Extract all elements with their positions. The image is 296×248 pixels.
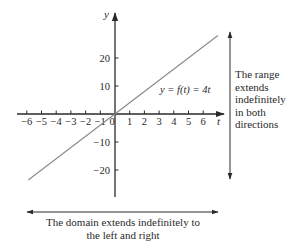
function-label: y = f(t) = 4t [159, 84, 211, 96]
x-axis-label: t [217, 115, 221, 127]
y-axis-label: y [103, 8, 109, 20]
x-tick-label: −4 [51, 116, 63, 127]
x-tick-label: 4 [171, 116, 177, 127]
x-tick-label: 1 [127, 116, 132, 127]
y-tick-label: −20 [94, 165, 110, 176]
y-tick-label: 20 [100, 53, 111, 64]
y-tick-label: 10 [100, 81, 111, 92]
x-tick-label: −5 [36, 116, 47, 127]
function-line [28, 36, 218, 180]
x-tick-label: 6 [201, 116, 206, 127]
x-tick-label: −3 [65, 116, 76, 127]
x-tick-label: 2 [142, 116, 147, 127]
x-tick-label: −2 [80, 116, 91, 127]
range-annotation: The rangeextendsindefinitelyin bothdirec… [235, 68, 286, 130]
x-tick-label: 3 [156, 116, 161, 127]
linear-function-chart: −6−5−4−3−2−10123456 2010−10−20 t y y = f… [0, 0, 296, 248]
x-axis-ticks: −6−5−4−3−2−10123456 [21, 111, 206, 128]
x-tick-label: 5 [186, 116, 191, 127]
y-tick-label: −10 [94, 137, 110, 148]
domain-annotation: The domain extends indefinitely tothe le… [46, 216, 200, 241]
x-tick-label: −6 [21, 116, 32, 127]
